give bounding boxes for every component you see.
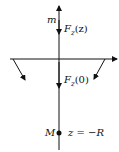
force-argument: (0) [75, 74, 89, 85]
label-position: z = −R [68, 128, 104, 138]
right-slant-arrow [94, 59, 105, 79]
left-slant-arrow [13, 59, 25, 80]
label-small-mass: m [47, 15, 56, 25]
force-symbol: F [64, 23, 71, 34]
label-large-mass: M [45, 128, 55, 138]
mass-point [57, 131, 62, 136]
label-force-z: Fz(z) [64, 24, 88, 37]
force-argument: (z) [75, 23, 88, 34]
force-symbol: F [64, 74, 71, 85]
label-force-zero: Fz(0) [64, 75, 89, 88]
